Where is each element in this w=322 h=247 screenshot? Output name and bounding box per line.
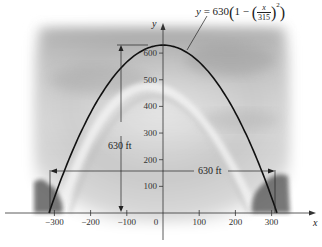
y-axis-arrow-icon	[161, 23, 166, 30]
equation-label: y = 630(1 − (x315)2)	[196, 3, 285, 22]
x-tick-label: 0	[154, 217, 159, 227]
x-tick-label: 100	[192, 217, 206, 227]
height-label: 630 ft	[108, 140, 132, 151]
x-axis-arrow-icon	[309, 211, 316, 216]
width-label: 630 ft	[198, 165, 222, 176]
eq-sign: =	[204, 5, 210, 17]
eq-minus: −	[243, 5, 249, 17]
x-tick-label: −200	[81, 217, 100, 227]
y-tick-label: 200	[144, 155, 158, 165]
arch-parabola-chart: −300−200−1000100200300 10020030040050060…	[0, 0, 322, 247]
photo-background	[34, 28, 290, 224]
y-axis-label: y	[151, 18, 157, 29]
fraction: x315	[257, 3, 271, 22]
y-tick-label: 500	[144, 75, 158, 85]
x-axis-label: x	[312, 217, 318, 228]
x-tick-label: −300	[45, 217, 64, 227]
eq-coef: 630	[213, 5, 230, 17]
fraction-denominator: 315	[257, 13, 271, 22]
paren-close: )	[280, 4, 285, 21]
y-tick-label: 400	[144, 101, 158, 111]
y-tick-label: 300	[144, 128, 158, 138]
x-tick-label: 200	[229, 217, 243, 227]
y-tick-label: 600	[144, 48, 158, 58]
exponent: 2	[276, 1, 280, 9]
x-tick-label: −100	[118, 217, 137, 227]
eq-one: 1	[234, 5, 240, 17]
eq-lhs: y	[196, 5, 201, 17]
x-tick-label: 300	[265, 217, 279, 227]
y-tick-label: 100	[144, 181, 158, 191]
fraction-numerator: x	[257, 3, 271, 13]
